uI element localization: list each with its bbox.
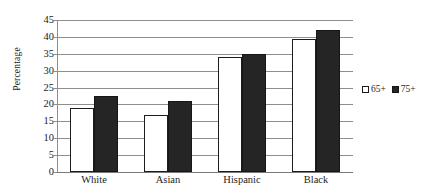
y-axis-tick-mark — [52, 104, 57, 105]
y-axis-tick-label: 40 — [26, 32, 54, 42]
y-axis-tick-labels: 051015202530354045 — [26, 0, 54, 195]
legend-label-65: 65+ — [371, 85, 386, 94]
bar-white-65plus — [70, 108, 94, 172]
legend-label-75: 75+ — [401, 85, 416, 94]
y-axis-tick-label: 15 — [26, 116, 54, 126]
chart-legend: 65+ 75+ — [362, 85, 416, 94]
y-axis-tick-mark — [52, 37, 57, 38]
legend-entry-65: 65+ — [362, 85, 386, 94]
y-axis-tick-label: 10 — [26, 133, 54, 143]
bar-hispanic-65plus — [218, 57, 242, 172]
bar-black-75plus — [316, 30, 340, 172]
legend-swatch-65-icon — [362, 86, 369, 93]
x-axis-label-white: White — [57, 174, 131, 185]
y-axis-tick-mark — [52, 71, 57, 72]
y-axis-tick-mark — [52, 20, 57, 21]
gridline — [57, 20, 353, 21]
y-axis-tick-label: 0 — [26, 167, 54, 177]
y-axis-tick-label: 25 — [26, 83, 54, 93]
y-axis-tick-label: 5 — [26, 150, 54, 160]
bars-layer — [57, 20, 353, 172]
y-axis-tick-label: 35 — [26, 49, 54, 59]
x-axis-category-labels: WhiteAsianHispanicBlack — [57, 174, 353, 194]
x-axis-label-hispanic: Hispanic — [205, 174, 279, 185]
bar-chart: Percentage 051015202530354045 WhiteAsian… — [0, 0, 440, 195]
bar-hispanic-75plus — [242, 54, 266, 172]
gridline — [57, 172, 353, 173]
bar-asian-65plus — [144, 115, 168, 172]
y-axis-title: Percentage — [12, 26, 22, 112]
legend-swatch-75-icon — [392, 86, 399, 93]
y-axis-tick-label: 20 — [26, 99, 54, 109]
plot-area — [57, 20, 353, 172]
y-axis-tick-mark — [52, 121, 57, 122]
y-axis-tick-mark — [52, 155, 57, 156]
x-axis-label-asian: Asian — [131, 174, 205, 185]
x-axis-label-black: Black — [279, 174, 353, 185]
bar-white-75plus — [94, 96, 118, 172]
legend-entry-75: 75+ — [392, 85, 416, 94]
y-axis-tick-label: 45 — [26, 15, 54, 25]
y-axis-tick-mark — [52, 138, 57, 139]
y-axis-tick-label: 30 — [26, 66, 54, 76]
bar-asian-75plus — [168, 101, 192, 172]
y-axis-tick-mark — [52, 172, 57, 173]
y-axis-tick-mark — [52, 88, 57, 89]
bar-black-65plus — [292, 39, 316, 172]
y-axis-tick-mark — [52, 54, 57, 55]
